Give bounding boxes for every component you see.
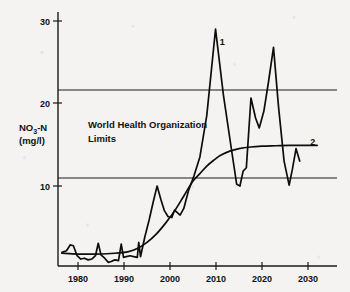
who-limits-annotation: World Health Organization Limits bbox=[88, 119, 207, 144]
y-axis-title: NO3-N (mg/l) bbox=[19, 122, 47, 146]
x-tick-label-2030: 2030 bbox=[298, 274, 318, 284]
chart-container: 30 20 10 1980 1990 2000 2010 2020 2030 N… bbox=[0, 0, 350, 292]
y-tick-labels: 30 20 10 bbox=[40, 17, 50, 192]
y-tick-label-10: 10 bbox=[40, 182, 50, 192]
x-tick-label-2000: 2000 bbox=[160, 274, 180, 284]
x-tick-label-1990: 1990 bbox=[114, 274, 134, 284]
series-line-2 bbox=[62, 145, 317, 254]
x-tick-labels: 1980 1990 2000 2010 2020 2030 bbox=[68, 274, 318, 284]
y-axis-title-line1: NO3-N bbox=[19, 122, 47, 135]
series-label-2: 2 bbox=[310, 137, 315, 147]
who-limits-line2: Limits bbox=[88, 133, 116, 144]
x-tick-label-1980: 1980 bbox=[68, 274, 88, 284]
x-tick-label-2020: 2020 bbox=[252, 274, 272, 284]
x-tick-label-2010: 2010 bbox=[206, 274, 226, 284]
who-limits-line1: World Health Organization bbox=[88, 119, 207, 130]
series-label-1: 1 bbox=[220, 37, 225, 47]
y-tick-label-30: 30 bbox=[40, 17, 50, 27]
nitrate-trend-chart: 30 20 10 1980 1990 2000 2010 2020 2030 N… bbox=[0, 0, 350, 292]
y-axis-title-line2: (mg/l) bbox=[19, 135, 45, 146]
y-tick-label-20: 20 bbox=[40, 99, 50, 109]
